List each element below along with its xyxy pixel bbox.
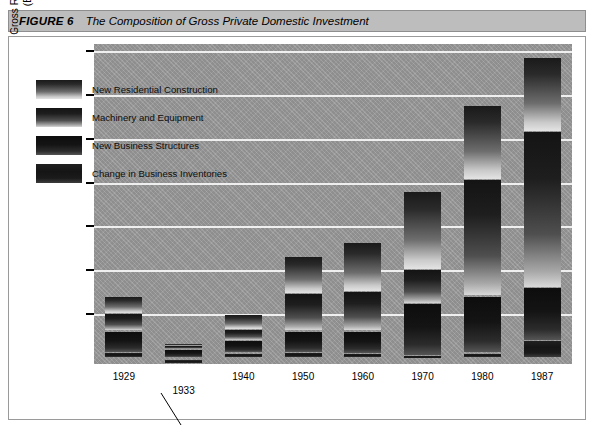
annotation-leader-line bbox=[9, 37, 587, 421]
chart-frame: Gross Revenue Domestic Investment (Billi… bbox=[8, 36, 586, 420]
figure-caption-bar: FIGURE 6 The Composition of Gross Privat… bbox=[8, 10, 586, 32]
y-axis-title-line2: (Billions of 1982 Dollars) bbox=[21, 0, 34, 6]
y-axis-title-line1: Gross Revenue Domestic Investment bbox=[8, 0, 21, 35]
figure-title: The Composition of Gross Private Domesti… bbox=[86, 15, 369, 27]
